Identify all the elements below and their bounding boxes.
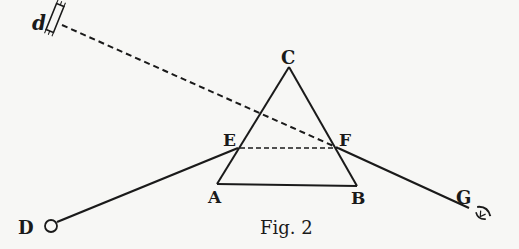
label-a: A bbox=[207, 187, 222, 207]
object-circle-icon bbox=[45, 220, 57, 232]
figure-diagram: d C E F A B D G Fig. 2 bbox=[0, 0, 519, 249]
eye-icon bbox=[473, 204, 492, 222]
prism-side-ac bbox=[217, 67, 289, 184]
label-f: F bbox=[339, 130, 351, 150]
figure-caption: Fig. 2 bbox=[260, 217, 313, 238]
mirror-icon bbox=[45, 0, 66, 36]
label-b: B bbox=[351, 188, 365, 208]
label-c: C bbox=[281, 47, 295, 68]
prism-base-ab bbox=[217, 184, 357, 186]
label-d: d bbox=[32, 11, 46, 35]
label-d-upper: D bbox=[18, 217, 34, 238]
label-g: G bbox=[456, 187, 471, 208]
dashed-line-d-to-f bbox=[62, 25, 338, 148]
prism-side-bc bbox=[289, 67, 357, 186]
ray-d-to-e bbox=[57, 148, 238, 222]
label-e: E bbox=[223, 130, 236, 150]
